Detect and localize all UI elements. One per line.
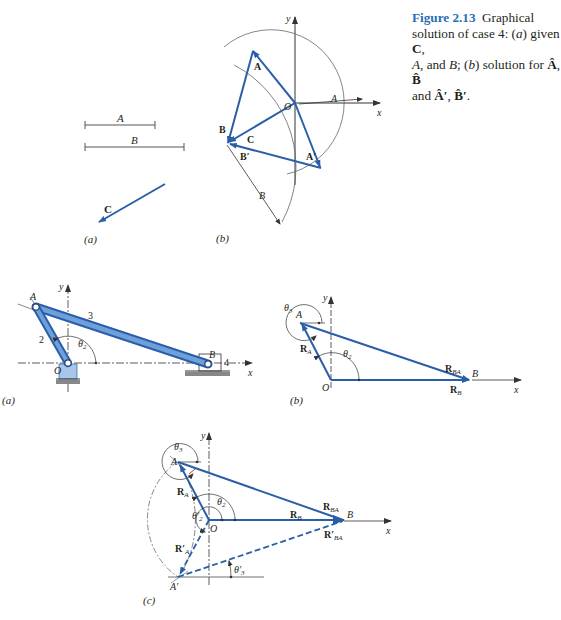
svg-text:A: A [170,456,178,467]
svg-text:y: y [200,430,206,441]
vector-a [253,51,295,103]
vector-rba-prime [178,521,343,577]
svg-text:x: x [376,107,382,118]
vector-b-label: B [219,124,226,135]
linkage-panel-a: y x A B O 2 3 4 θ2 (a) [2,281,253,407]
svg-text:O: O [210,523,217,534]
vector-rba-label: RBA [323,501,340,514]
svg-text:A: A [295,309,303,320]
svg-text:B: B [347,509,353,520]
vector-c-label: C [104,203,112,215]
svg-text:x: x [385,525,391,536]
link-2-label: 2 [39,334,44,345]
vector-ra-label: RA [300,343,312,356]
radius-a-label: A [330,93,338,104]
theta2-prime-label: θ′2 [192,510,203,523]
segment-b-label: B [131,134,138,146]
svg-text:y: y [285,13,291,24]
origin-label: O [284,101,291,112]
link-3-label: 3 [88,310,93,321]
vector-rba [300,323,469,380]
theta2-arc [319,353,359,379]
svg-text:A: A [29,291,37,302]
panel-a-label: (a) [84,233,97,246]
vector-b-prime-label: B′ [240,151,250,162]
link-4-label: 4 [224,357,229,368]
radius-b-label: B [259,190,265,201]
pin-a [33,304,39,310]
theta2-label: θ2 [343,348,352,361]
vector-c-label: C [247,134,254,145]
vector-rba [178,462,343,520]
fig213-panel-b: y x A B O A B C A′ B′ (b) [216,13,382,245]
svg-text:O: O [54,365,61,376]
panel-b-label: (b) [216,232,229,245]
pin-b [205,361,211,367]
segment-a-label: A [116,112,124,124]
panel-b-label: (b) [290,394,303,407]
theta3-prime-label: θ′3 [234,564,245,577]
vector-rba-prime-label: R′BA [324,529,343,542]
svg-text:A′: A′ [169,581,179,592]
theta2-label: θ2 [217,496,226,509]
figures-canvas: A B C (a) y x A B O A B C A′ B′ [0,0,561,620]
panel-a-label: (a) [2,394,15,407]
vector-rb-label: RB [450,384,462,397]
theta3-label: θ3 [174,441,183,454]
vector-rba-label: RBA [445,363,462,376]
theta2-label: θ2 [78,338,87,351]
pin-o [65,360,71,366]
panel-c-label: (c) [143,594,156,607]
ground-slider [185,372,230,376]
vector-ra-label: RA [177,486,189,499]
svg-text:y: y [322,292,328,303]
vector-ra-prime-label: R′A [175,543,190,556]
theta3-label: θ3 [284,302,293,315]
theta3-prime-arc [229,561,231,577]
svg-text:x: x [247,367,253,378]
vector-a-label: A [254,61,262,72]
svg-text:x: x [513,384,519,395]
svg-text:y: y [58,281,64,292]
svg-text:B: B [472,368,478,379]
svg-text:O: O [322,382,329,393]
linkage-panel-b: y x A B O θ3 θ2 RA RBA RB (b) [284,292,521,407]
fig213-panel-a: A B C (a) [84,112,184,246]
vector-a-prime-label: A′ [306,151,316,162]
svg-text:B: B [209,349,215,360]
linkage-panel-c: y x A A′ B O θ3 θ2 [143,430,391,607]
